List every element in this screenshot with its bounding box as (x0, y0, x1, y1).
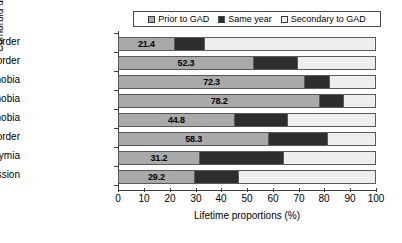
x-tick-mark (247, 188, 248, 192)
bar-segment-secondary-to-gad[interactable] (284, 152, 375, 164)
x-tick-label-90: 90 (338, 193, 362, 205)
y-tick-label-panic-disorder: Panic disorder (0, 131, 20, 143)
bar-value-label: 21.4 (138, 39, 155, 49)
legend-swatch-icon-secondary (281, 16, 288, 23)
x-tick-mark (196, 188, 197, 192)
bar-segment-prior-to-gad[interactable]: 21.4 (119, 38, 174, 50)
legend-item-same-year: Same year (218, 14, 272, 24)
bar-segment-same-year[interactable] (194, 171, 240, 183)
bar-value-label: 29.2 (148, 172, 165, 182)
bar-value-label: 58.3 (185, 134, 202, 144)
bar-segment-secondary-to-gad[interactable] (288, 114, 375, 126)
x-tick-label-70: 70 (287, 193, 311, 205)
x-tick-mark (324, 188, 325, 192)
table-row[interactable]: 29.2 (118, 170, 376, 184)
chart-legend: Prior to GAD Same year Secondary to GAD (133, 11, 381, 27)
bar-value-label: 31.2 (151, 153, 168, 163)
bar-segment-prior-to-gad[interactable]: 29.2 (119, 171, 194, 183)
table-row[interactable]: 31.2 (118, 151, 376, 165)
x-tick-label-100: 100 (364, 193, 388, 205)
x-tick-label-30: 30 (184, 193, 208, 205)
y-tick-label-alcohol-disorder: Alcohol disorder (0, 55, 20, 67)
bar-segment-same-year[interactable] (234, 114, 288, 126)
x-axis-title: Lifetime proportions (%) (118, 210, 376, 222)
y-tick-label-social-phobia: Social phobia (0, 74, 20, 86)
y-tick-label-major-depression: Major depression (0, 169, 20, 181)
table-row[interactable]: 52.3 (118, 56, 376, 70)
legend-swatch-icon-same-year (218, 16, 225, 23)
bar-segment-prior-to-gad[interactable]: 52.3 (119, 57, 253, 69)
y-tick-label-dysthymia: Dysthymia (0, 150, 20, 162)
bar-segment-same-year[interactable] (174, 38, 205, 50)
table-row[interactable]: 72.3 (118, 75, 376, 89)
y-tick-label-drug-disorder: Drug disorder (0, 36, 20, 48)
table-row[interactable]: 44.8 (118, 113, 376, 127)
bar-segment-same-year[interactable] (304, 76, 330, 88)
bar-segment-same-year[interactable] (319, 95, 344, 107)
legend-label-same-year: Same year (228, 14, 272, 24)
x-tick-mark (273, 188, 274, 192)
bar-segment-secondary-to-gad[interactable] (328, 133, 375, 145)
y-axis-line (118, 31, 119, 190)
bar-value-label: 72.3 (203, 77, 220, 87)
legend-swatch-icon-prior (148, 16, 155, 23)
x-tick-label-10: 10 (132, 193, 156, 205)
x-tick-mark (144, 188, 145, 192)
stacked-bar-chart: Prior to GAD Same year Secondary to GAD … (0, 0, 402, 243)
bar-segment-secondary-to-gad[interactable] (205, 38, 375, 50)
bar-segment-secondary-to-gad[interactable] (239, 171, 375, 183)
x-tick-mark (170, 188, 171, 192)
bar-value-label: 52.3 (178, 58, 195, 68)
y-tick-label-agoraphobia: Agoraphobia (0, 112, 20, 124)
bar-segment-prior-to-gad[interactable]: 31.2 (119, 152, 199, 164)
table-row[interactable]: 78.2 (118, 94, 376, 108)
legend-label-prior: Prior to GAD (158, 14, 209, 24)
x-tick-mark (118, 188, 119, 192)
bar-value-label: 44.8 (168, 115, 185, 125)
x-tick-label-0: 0 (106, 193, 130, 205)
x-tick-label-20: 20 (158, 193, 182, 205)
table-row[interactable]: 21.4 (118, 37, 376, 51)
table-row[interactable]: 58.3 (118, 132, 376, 146)
x-tick-mark (350, 188, 351, 192)
bar-segment-prior-to-gad[interactable]: 44.8 (119, 114, 234, 126)
bar-segment-same-year[interactable] (268, 133, 327, 145)
x-tick-mark (221, 188, 222, 192)
bar-segment-secondary-to-gad[interactable] (344, 95, 375, 107)
x-tick-mark (299, 188, 300, 192)
plot-area: 21.4 52.3 72.3 78.2 44.8 58.3 31.2 29.2 (118, 33, 376, 188)
legend-item-secondary-to-gad: Secondary to GAD (281, 14, 366, 24)
x-tick-mark (376, 188, 377, 192)
bar-segment-prior-to-gad[interactable]: 72.3 (119, 76, 304, 88)
x-tick-label-60: 60 (261, 193, 285, 205)
bar-segment-secondary-to-gad[interactable] (298, 57, 375, 69)
x-tick-label-80: 80 (312, 193, 336, 205)
bar-segment-prior-to-gad[interactable]: 58.3 (119, 133, 268, 145)
legend-item-prior-to-gad: Prior to GAD (148, 14, 209, 24)
x-tick-label-40: 40 (209, 193, 233, 205)
bar-segment-prior-to-gad[interactable]: 78.2 (119, 95, 319, 107)
legend-label-secondary: Secondary to GAD (291, 14, 366, 24)
bar-value-label: 78.2 (211, 96, 228, 106)
y-tick-label-simple-phobia: Simple phobia (0, 93, 20, 105)
bar-segment-same-year[interactable] (199, 152, 284, 164)
x-tick-label-50: 50 (235, 193, 259, 205)
bar-segment-same-year[interactable] (253, 57, 298, 69)
bar-segment-secondary-to-gad[interactable] (330, 76, 375, 88)
